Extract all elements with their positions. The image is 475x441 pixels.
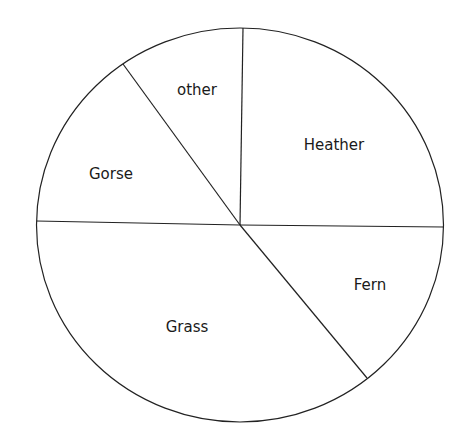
slice-label-heather: Heather	[304, 136, 365, 154]
slice-label-fern: Fern	[354, 276, 386, 294]
slice-label-other: other	[177, 81, 218, 99]
pie-chart: other Heather Gorse Fern Grass	[0, 0, 475, 441]
slice-label-grass: Grass	[166, 318, 209, 336]
slice-label-gorse: Gorse	[89, 165, 133, 183]
